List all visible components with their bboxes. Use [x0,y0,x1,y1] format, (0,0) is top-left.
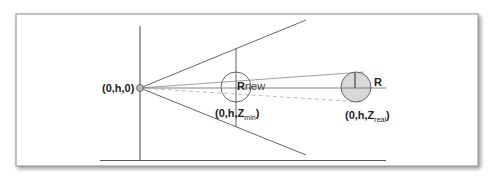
r-label: R [374,76,382,88]
r-circle [341,72,371,102]
camera-projection-diagram: (0,h,0) Rnew (0,h,Zmin) R (0,h,Zreal) [0,0,499,182]
origin-label: (0,h,0) [102,82,135,94]
rnew-label: Rnew [237,80,265,92]
origin-point [137,85,144,92]
